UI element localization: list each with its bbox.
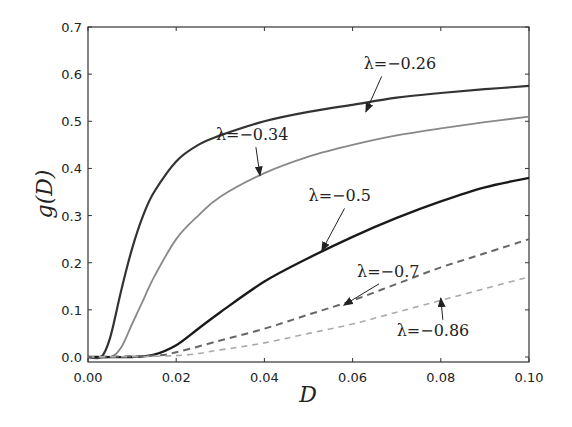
y-tick-label: 0.0 (61, 350, 82, 365)
y-tick-label: 0.5 (61, 114, 82, 129)
y-tick-label: 0.6 (61, 67, 82, 82)
y-tick-label: 0.4 (61, 161, 82, 176)
annotation-label: λ=−0.5 (309, 186, 371, 205)
x-tick-label: 0.06 (338, 370, 367, 385)
y-tick-label: 0.1 (61, 303, 82, 318)
annotation-label: λ=−0.26 (364, 54, 437, 73)
x-tick-label: 0.04 (250, 370, 279, 385)
y-tick-label: 0.2 (61, 256, 82, 271)
annotation-label: λ=−0.86 (397, 321, 470, 340)
x-axis-label: D (298, 382, 317, 407)
annotation-label: λ=−0.7 (357, 262, 419, 281)
y-axis-label: g(D) (32, 170, 57, 219)
x-tick-label: 0.10 (515, 370, 544, 385)
plot-area: λ=−0.26λ=−0.34λ=−0.5λ=−0.7λ=−0.86 (88, 27, 529, 362)
x-tick-label: 0.08 (426, 370, 455, 385)
y-tick-label: 0.3 (61, 209, 82, 224)
x-tick-label: 0.02 (162, 370, 191, 385)
x-tick-label: 0.00 (74, 370, 103, 385)
chart-svg: λ=−0.26λ=−0.34λ=−0.5λ=−0.7λ=−0.86 0.000.… (0, 0, 572, 427)
annotation-label: λ=−0.34 (216, 125, 289, 144)
y-tick-label: 0.7 (61, 20, 82, 35)
